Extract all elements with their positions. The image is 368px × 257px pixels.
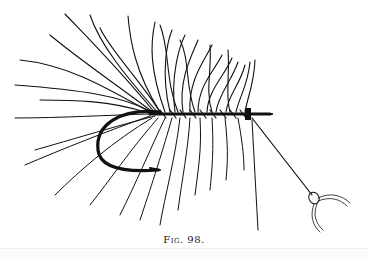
hook — [98, 111, 160, 170]
page-edge — [0, 248, 368, 257]
hackle-fibers-upper — [15, 14, 255, 113]
figure-caption: Fig. 98. — [0, 234, 368, 245]
leader-and-loop — [252, 118, 350, 232]
fishing-fly-illustration — [0, 0, 368, 234]
figure-page: Fig. 98. — [0, 0, 368, 257]
